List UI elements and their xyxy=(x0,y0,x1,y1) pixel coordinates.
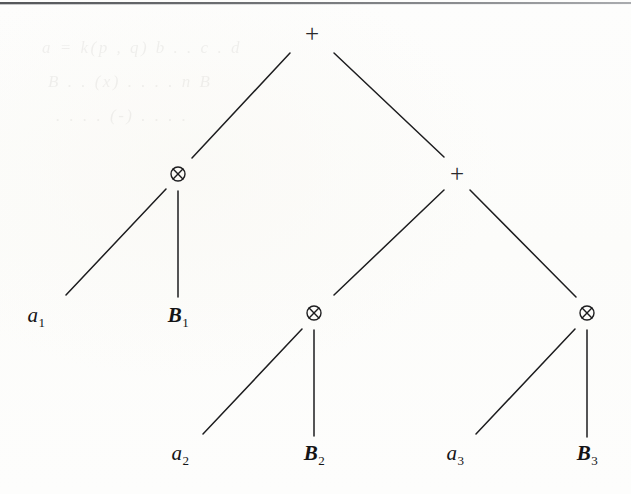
plus-operator-icon: + xyxy=(305,21,319,46)
leaf-base-symbol: B xyxy=(168,303,182,327)
tree-leaf-label: B2 xyxy=(304,443,325,464)
leaf-subscript: 1 xyxy=(39,315,46,330)
leaf-subscript: 2 xyxy=(183,453,190,468)
leaf-base-symbol: B xyxy=(577,441,591,465)
leaf-base-symbol: a xyxy=(447,441,458,465)
tensor-operator-icon xyxy=(170,166,186,182)
tree-edge xyxy=(66,189,166,295)
leaf-subscript: 3 xyxy=(591,453,598,468)
tree-edge-layer xyxy=(0,0,631,494)
tree-edge xyxy=(334,190,444,295)
leaf-base-symbol: B xyxy=(304,441,318,465)
tree-edge xyxy=(192,53,290,158)
leaf-subscript: 2 xyxy=(318,453,325,468)
figure-canvas: a = k(p , q) b . . c . dB . . (x) . . . … xyxy=(0,0,631,494)
tree-leaf-label: a3 xyxy=(447,443,464,464)
tree-leaf-label: a1 xyxy=(28,305,45,326)
leaf-base-symbol: a xyxy=(28,303,39,327)
tree-edge xyxy=(334,53,444,157)
tensor-operator-icon xyxy=(306,305,322,321)
tensor-operator-icon xyxy=(579,305,595,321)
tree-edge xyxy=(476,329,575,434)
leaf-subscript: 1 xyxy=(182,315,189,330)
leaf-base-symbol: a xyxy=(172,441,183,465)
tree-leaf-label: B3 xyxy=(577,443,598,464)
tree-leaf-label: B1 xyxy=(168,305,189,326)
tree-edge xyxy=(203,329,302,434)
leaf-subscript: 3 xyxy=(458,453,465,468)
tree-leaf-label: a2 xyxy=(172,443,189,464)
plus-operator-icon: + xyxy=(450,161,464,186)
tree-edge xyxy=(470,190,576,297)
